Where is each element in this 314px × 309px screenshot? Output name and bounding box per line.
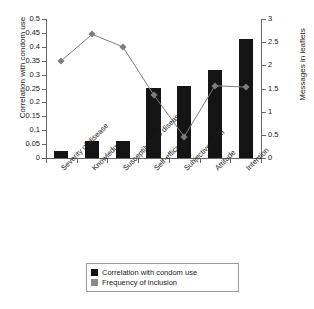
y-axis-right-tick	[262, 89, 266, 90]
y-axis-right-tick	[262, 19, 266, 20]
legend-item-bar: Correlation with condom use	[91, 268, 233, 277]
y-axis-right-tick	[262, 65, 266, 66]
y-axis-right-tick-label: 3	[268, 15, 272, 23]
legend-marker-swatch-icon	[91, 279, 98, 286]
y-axis-left-tick-label: 0.5	[30, 15, 40, 23]
y-axis-left-tick-label: 0.35	[25, 57, 40, 65]
y-axis-left-tick-label: 0.25	[25, 85, 40, 93]
legend-item-line: Frequency of inclusion	[91, 278, 233, 287]
y-axis-left-tick-label: 0.4	[30, 43, 40, 51]
y-axis-right-tick	[262, 42, 266, 43]
y-axis-right-tick-label: 2.5	[268, 38, 278, 46]
y-axis-right-tick-label: 0.5	[268, 131, 278, 139]
y-axis-left-tick-label: 0.1	[30, 126, 40, 134]
y-axis-left-tick-label: 0.05	[25, 140, 40, 148]
y-axis-right-title: Messages in leaflets	[298, 0, 307, 135]
y-axis-left-tick-label: 0	[36, 154, 40, 162]
chart-container: Correlation with condom use Messages in …	[0, 0, 314, 309]
y-axis-left-tick-label: 0.3	[30, 71, 40, 79]
y-axis-right-tick-label: 1	[268, 108, 272, 116]
bar-6	[239, 39, 253, 158]
y-axis-right-tick	[262, 112, 266, 113]
y-axis-left-tick-label: 0.2	[30, 98, 40, 106]
legend-bar-label: Correlation with condom use	[102, 268, 197, 277]
legend-bar-swatch-icon	[91, 269, 98, 276]
chart-legend: Correlation with condom use Frequency of…	[86, 263, 239, 292]
line-marker-2	[119, 43, 126, 50]
x-axis-labels: Severity of diseaseKnowledgeSusceptibili…	[0, 162, 314, 232]
line-marker-1	[89, 31, 96, 38]
y-axis-right-tick-label: 1.5	[268, 85, 278, 93]
y-axis-right-tick-label: 0	[268, 154, 272, 162]
y-axis-left-tick-label: 0.45	[25, 29, 40, 37]
legend-line-label: Frequency of inclusion	[102, 278, 177, 287]
y-axis-left-tick-label: 0.15	[25, 112, 40, 120]
y-axis-right-tick-label: 2	[268, 61, 272, 69]
y-axis-right-tick	[262, 135, 266, 136]
line-marker-0	[58, 57, 65, 64]
